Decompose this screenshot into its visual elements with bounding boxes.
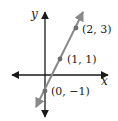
- label-point-0-neg1: (0, −1): [51, 85, 90, 98]
- label-point-2-3: (2, 3): [82, 23, 112, 36]
- y-axis-label: y: [30, 7, 38, 21]
- coordinate-plot: y x (2, 3) (1, 1) (0, −1): [0, 0, 118, 121]
- point-1-1: [58, 57, 63, 62]
- x-axis-label: x: [101, 74, 108, 88]
- point-2-3: [74, 26, 79, 31]
- point-0-neg1: [43, 89, 48, 94]
- label-point-1-1: (1, 1): [67, 53, 97, 66]
